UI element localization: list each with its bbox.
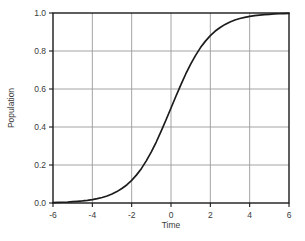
y-tick-label: 0.8 [34,46,46,56]
y-tick-label: 0.4 [34,122,46,132]
x-tick-label: 4 [247,210,252,220]
x-tick-label: 0 [169,210,174,220]
x-tick-label: 2 [208,210,213,220]
y-axis-title: Population [6,88,16,128]
y-tick-label: 0.6 [34,84,46,94]
x-axis-title: Time [162,220,181,230]
x-tick-label: -4 [89,210,97,220]
x-tick-label: 6 [287,210,292,220]
population-vs-time-chart: -6-4-20246 0.00.20.40.60.81.0 Time Popul… [0,0,305,241]
x-tick-label: -2 [128,210,136,220]
x-tick-label: -6 [49,210,57,220]
y-tick-label: 0.0 [34,198,46,208]
y-tick-label: 1.0 [34,8,46,18]
chart-container: -6-4-20246 0.00.20.40.60.81.0 Time Popul… [0,0,305,241]
y-tick-label: 0.2 [34,160,46,170]
